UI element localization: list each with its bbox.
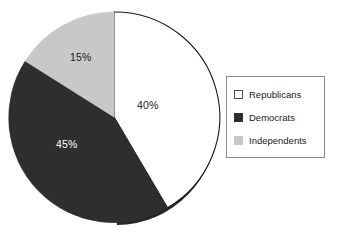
chart-legend: Republicans Democrats Independents bbox=[226, 76, 325, 158]
legend-swatch-democrats-icon bbox=[234, 113, 243, 122]
legend-label-republicans: Republicans bbox=[249, 90, 301, 100]
legend-label-democrats: Democrats bbox=[249, 113, 295, 123]
legend-swatch-republicans-icon bbox=[234, 90, 243, 99]
legend-item-republicans[interactable]: Republicans bbox=[234, 83, 324, 106]
legend-swatch-independents-icon bbox=[234, 136, 243, 145]
legend-label-independents: Independents bbox=[249, 136, 307, 146]
pie-chart-figure: 40% 45% 15% Republicans Democrats Indepe… bbox=[0, 0, 338, 234]
legend-item-independents[interactable]: Independents bbox=[234, 129, 324, 152]
legend-item-democrats[interactable]: Democrats bbox=[234, 106, 324, 129]
